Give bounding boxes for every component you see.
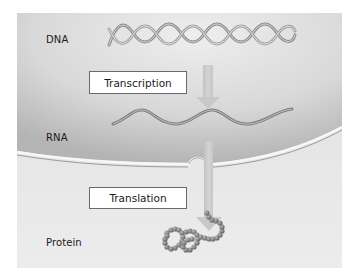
stage-label-dna: DNA [46, 34, 68, 45]
stage-label-protein: Protein [46, 237, 82, 248]
process-box-transcription: Transcription [89, 71, 187, 94]
stage-label-rna: RNA [46, 132, 68, 143]
process-box-translation: Translation [89, 187, 187, 209]
diagram-panel: DNA RNA Protein Transcription Translatio… [17, 13, 342, 268]
